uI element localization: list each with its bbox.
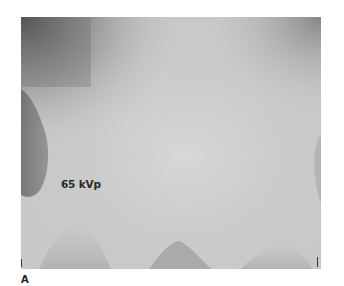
radiograph-image [21, 17, 321, 269]
panel-label: A [21, 274, 29, 285]
left-edge-mark [21, 259, 22, 267]
right-edge-mark [317, 257, 318, 267]
radiograph-shading [21, 17, 321, 269]
radiograph-figure: 65 kVp A [0, 0, 344, 286]
kvp-annotation: 65 kVp [61, 178, 101, 190]
